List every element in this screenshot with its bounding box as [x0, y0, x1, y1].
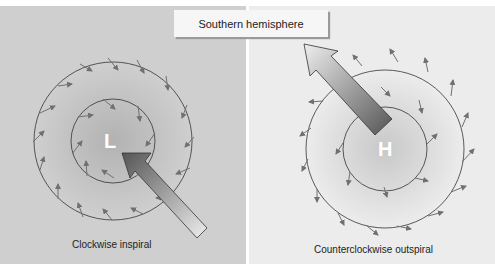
- low-pressure-system: [33, 58, 207, 238]
- low-caption: Clockwise inspiral: [72, 239, 151, 250]
- high-caption: Counterclockwise outspiral: [314, 244, 433, 255]
- title-box: Southern hemisphere: [174, 10, 328, 37]
- low-pressure-label: L: [104, 130, 116, 153]
- high-pressure-label: H: [378, 138, 392, 161]
- diagram: L H Southern hemisphere Clockwise inspir…: [0, 0, 495, 264]
- diagram-title: Southern hemisphere: [198, 18, 303, 30]
- pressure-systems-graphic: [0, 0, 495, 264]
